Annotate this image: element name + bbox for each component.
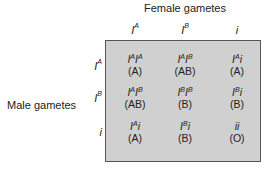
cell-IB-IB: IBIB (B) xyxy=(160,86,210,110)
phenotype: (AB) xyxy=(110,98,160,110)
cell-i-i: ii (O) xyxy=(212,120,262,144)
phenotype: (B) xyxy=(160,132,210,144)
cell-IA-IB: IAIB (AB) xyxy=(160,53,210,77)
cell-IA-IA: IAIA (A) xyxy=(110,53,160,77)
genotype: IAi xyxy=(212,53,262,65)
genotype: IBIB xyxy=(160,86,210,98)
female-gametes-label: Female gametes xyxy=(140,2,230,14)
genotype: IBi xyxy=(160,120,210,132)
cell-IA-i: IAi (A) xyxy=(212,53,262,77)
cell-i-IB: IBi (B) xyxy=(160,120,210,144)
genotype: IAIB xyxy=(110,86,160,98)
genotype: ii xyxy=(212,120,262,132)
row-header-i: i xyxy=(88,126,102,138)
cell-i-IA: IAi (A) xyxy=(110,120,160,144)
genotype: IAi xyxy=(110,120,160,132)
col-header-IB: IB xyxy=(165,24,205,36)
cell-IB-i: IBi (B) xyxy=(212,86,262,110)
genotype: IAIA xyxy=(110,53,160,65)
row-header-IA: IA xyxy=(88,60,102,72)
row-header-IB: IB xyxy=(88,92,102,104)
col-header-IA: IA xyxy=(115,24,155,36)
phenotype: (AB) xyxy=(160,65,210,77)
cell-IB-IA: IAIB (AB) xyxy=(110,86,160,110)
phenotype: (A) xyxy=(212,65,262,77)
phenotype: (B) xyxy=(160,98,210,110)
genotype: IBi xyxy=(212,86,262,98)
phenotype: (A) xyxy=(110,65,160,77)
phenotype: (B) xyxy=(212,98,262,110)
phenotype: (O) xyxy=(212,132,262,144)
col-header-i: i xyxy=(217,24,257,36)
genotype: IAIB xyxy=(160,53,210,65)
male-gametes-label: Male gametes xyxy=(7,99,76,111)
phenotype: (A) xyxy=(110,132,160,144)
